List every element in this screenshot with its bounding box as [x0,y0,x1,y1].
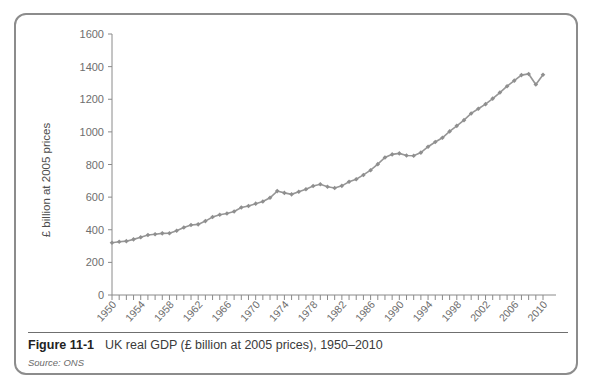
gdp-data-point [189,223,194,228]
gdp-data-point [253,201,258,206]
y-tick-label: 200 [86,256,104,268]
gdp-data-point [174,228,179,233]
gdp-data-point [153,232,158,237]
figure-caption: Figure 11-1UK real GDP (£ billion at 200… [28,337,568,354]
gdp-data-point [411,153,416,158]
x-tick-label: 1974 [266,298,291,324]
y-tick-label: 1200 [80,93,104,105]
gdp-data-point [325,184,330,189]
gdp-data-point [296,189,301,194]
y-tick-label: 1400 [80,61,104,73]
x-tick-label: 1970 [238,298,263,324]
gdp-data-point [160,231,165,236]
gdp-data-point [217,212,222,217]
gdp-data-point [138,235,143,240]
figure-title: UK real GDP (£ billion at 2005 prices), … [105,338,383,352]
x-tick-label: 1982 [324,298,349,324]
gdp-data-point [196,222,201,227]
y-axis: 02004006008001000120014001600 [80,28,112,301]
gdp-data-point [146,233,151,238]
x-tick-label: 1994 [410,298,435,324]
figure-number: Figure 11-1 [28,338,94,352]
x-tick-label: 1966 [209,298,234,324]
x-tick-label: 1990 [381,298,406,324]
gdp-data-point [289,192,294,197]
figure-source: Source: ONS [28,357,568,369]
y-tick-label: 1000 [80,126,104,138]
gdp-data-point [332,186,337,191]
y-tick-label: 600 [86,191,104,203]
x-tick-label: 1998 [439,298,464,324]
figure-card: 02004006008001000120014001600 1950195419… [14,13,578,375]
y-tick-label: 1600 [80,28,104,40]
x-tick-label: 2010 [525,298,550,324]
caption-divider [28,332,568,333]
gdp-data-point [117,240,122,245]
gdp-data-point [131,237,136,242]
y-tick-label: 0 [98,289,104,301]
gdp-data-point [282,191,287,196]
gdp-line [112,74,543,243]
y-axis-title: £ billion at 2005 prices [40,123,52,238]
x-tick-label: 1986 [353,298,378,324]
gdp-data-point [390,152,395,157]
gdp-data-point [225,211,230,216]
gdp-data-point [318,182,323,187]
gdp-data-point [246,204,251,209]
x-tick-label: 1954 [123,298,148,324]
chart-plot-region: 02004006008001000120014001600 1950195419… [16,15,576,330]
gdp-data-point [167,231,172,236]
x-tick-label: 2002 [467,298,492,324]
gdp-data-point [311,184,316,189]
gdp-line-chart: 02004006008001000120014001600 1950195419… [16,15,576,330]
gdp-data-point [110,241,115,246]
caption-block: Figure 11-1UK real GDP (£ billion at 200… [28,337,568,369]
x-tick-label: 1958 [151,298,176,324]
gdp-series [110,72,546,245]
y-tick-label: 800 [86,159,104,171]
x-tick-label: 1962 [180,298,205,324]
x-tick-label: 1950 [94,298,119,324]
gdp-data-point [397,151,402,156]
x-tick-label: 2006 [496,298,521,324]
x-tick-label: 1978 [295,298,320,324]
y-tick-label: 400 [86,224,104,236]
gdp-data-point [124,239,129,244]
gdp-data-point [404,153,409,158]
x-axis: 1950195419581962196619701974197819821986… [94,295,556,324]
